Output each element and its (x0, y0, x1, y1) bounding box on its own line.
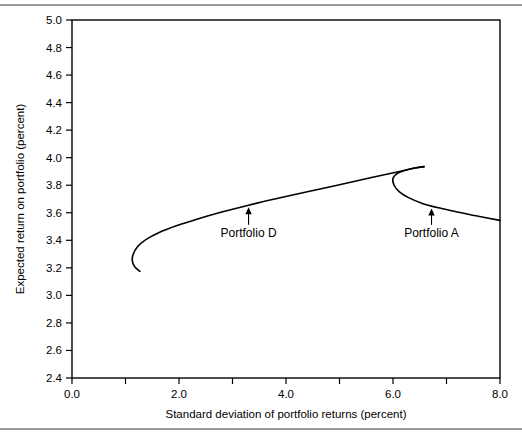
bottom-divider-rule (0, 428, 522, 430)
efficient-frontier-plot: 2.42.62.83.03.23.43.63.84.04.24.44.64.85… (0, 0, 522, 435)
y-axis-tick-label: 3.4 (46, 234, 63, 246)
x-axis-tick-label: 2.0 (171, 388, 187, 400)
top-divider-rule (0, 4, 522, 6)
frontier-curve-group (132, 167, 500, 272)
efficient-frontier-lower-branch (393, 167, 500, 221)
y-axis-tick-label: 3.0 (46, 289, 62, 301)
y-axis-tick-label: 3.6 (46, 207, 62, 219)
y-axis-title: Expected return on portfolio (percent) (14, 104, 26, 295)
chart-figure: 2.42.62.83.03.23.43.63.84.04.24.44.64.85… (0, 0, 522, 435)
y-axis-tick-label: 3.8 (46, 179, 62, 191)
y-axis-tick-group: 2.42.62.83.03.23.43.63.84.04.24.44.64.85… (46, 14, 72, 384)
portfolio-a-annotation: Portfolio A (404, 209, 459, 240)
y-axis-tick-label: 5.0 (46, 14, 62, 26)
y-axis-tick-label: 2.4 (46, 372, 63, 384)
portfolio-d-annotation: Portfolio D (221, 207, 277, 240)
x-axis-tick-group: 0.02.04.06.08.0 (64, 378, 508, 400)
annotation-label: Portfolio D (221, 226, 277, 240)
annotation-arrowhead (245, 207, 251, 214)
plot-frame (72, 20, 500, 378)
x-axis-tick-label: 8.0 (492, 388, 508, 400)
annotation-arrowhead (428, 209, 434, 216)
annotation-label: Portfolio A (404, 226, 459, 240)
y-axis-tick-label: 4.6 (46, 69, 62, 81)
x-axis-tick-label: 0.0 (64, 388, 80, 400)
y-axis-tick-label: 2.8 (46, 317, 62, 329)
x-axis-tick-label: 4.0 (278, 388, 294, 400)
y-axis-tick-label: 2.6 (46, 344, 62, 356)
y-axis-tick-label: 4.0 (46, 152, 62, 164)
x-axis-tick-label: 6.0 (385, 388, 401, 400)
annotation-group: Portfolio DPortfolio A (221, 207, 459, 240)
y-axis-tick-label: 4.2 (46, 124, 62, 136)
efficient-frontier-upper-branch (132, 167, 424, 272)
y-axis-tick-label: 3.2 (46, 262, 62, 274)
y-axis-tick-label: 4.8 (46, 42, 62, 54)
y-axis-tick-label: 4.4 (46, 97, 63, 109)
x-axis-title: Standard deviation of portfolio returns … (166, 408, 407, 420)
